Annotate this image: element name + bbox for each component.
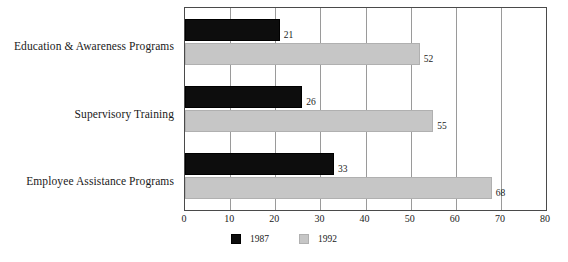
bar-1987-0 (185, 19, 280, 41)
legend-label: 1987 (250, 234, 269, 244)
bar-value-label: 21 (284, 30, 294, 40)
bar-value-label: 68 (496, 188, 506, 198)
x-tick-label: 20 (269, 213, 279, 224)
bar-1992-0 (185, 43, 420, 65)
bar-value-label: 52 (424, 54, 434, 64)
bar-1987-2 (185, 153, 334, 175)
chart-page: Education & Awareness Programs Superviso… (0, 0, 568, 262)
x-tick-label: 80 (540, 213, 550, 224)
category-axis-labels: Education & Awareness Programs Superviso… (0, 7, 180, 211)
x-tick-label: 70 (495, 213, 505, 224)
legend-swatch-icon (299, 234, 309, 244)
category-label: Supervisory Training (75, 108, 174, 120)
legend-label: 1992 (318, 234, 337, 244)
bar-value-label: 26 (306, 97, 316, 107)
x-tick-label: 0 (182, 213, 187, 224)
x-tick-label: 50 (405, 213, 415, 224)
legend-item-1992: 1992 (299, 234, 337, 244)
x-tick-label: 10 (224, 213, 234, 224)
category-label: Employee Assistance Programs (26, 175, 174, 187)
bar-1992-1 (185, 110, 433, 132)
bar-value-label: 33 (338, 164, 348, 174)
bars-layer: 215226553368 (185, 8, 546, 210)
x-tick-label: 40 (360, 213, 370, 224)
legend-swatch-icon (231, 234, 241, 244)
plot-area: 215226553368 (184, 7, 547, 211)
bar-value-label: 55 (437, 121, 447, 131)
bar-1987-1 (185, 86, 302, 108)
x-axis: 01020304050607080 (184, 212, 547, 230)
x-tick-label: 30 (314, 213, 324, 224)
category-label: Education & Awareness Programs (14, 40, 174, 52)
bar-1992-2 (185, 177, 492, 199)
legend: 1987 1992 (0, 234, 568, 244)
legend-item-1987: 1987 (231, 234, 269, 244)
x-tick-label: 60 (450, 213, 460, 224)
